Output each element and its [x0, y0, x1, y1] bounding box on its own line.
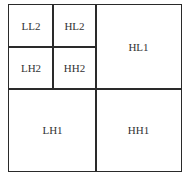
cell-hh1: HH1 — [96, 89, 181, 170]
cell-hl1: HL1 — [96, 5, 181, 89]
cell-label: HH1 — [128, 124, 149, 136]
subband-diagram: LL2 HL2 LH2 HH2 HL1 LH1 HH1 — [8, 4, 182, 172]
cell-label: LL2 — [22, 20, 41, 32]
cell-hh2: HH2 — [53, 47, 96, 89]
cell-label: HL1 — [128, 41, 148, 53]
cell-hl2: HL2 — [53, 5, 96, 47]
cell-lh1: LH1 — [9, 89, 96, 170]
cell-ll2: LL2 — [9, 5, 53, 47]
cell-lh2: LH2 — [9, 47, 53, 89]
cell-label: LH2 — [21, 62, 41, 74]
cell-label: HH2 — [64, 62, 85, 74]
cell-label: HL2 — [64, 20, 84, 32]
cell-label: LH1 — [42, 124, 62, 136]
